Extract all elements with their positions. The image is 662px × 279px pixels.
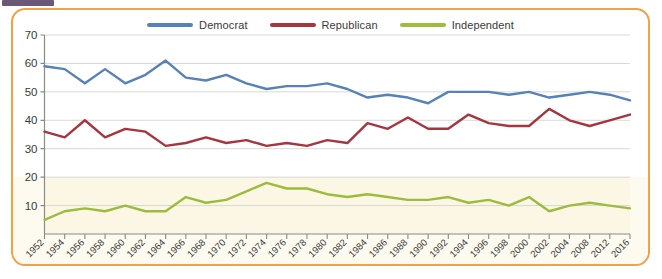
y-axis-label: 10 xyxy=(25,200,38,212)
cropped-banner-fragment xyxy=(2,0,54,6)
y-axis-label: 40 xyxy=(25,114,38,126)
plot-background xyxy=(13,35,650,266)
line-chart-svg: 10203040506070 1952195419561958196019621… xyxy=(13,10,650,266)
y-axis-label: 50 xyxy=(25,86,38,98)
y-axis-label: 60 xyxy=(25,57,38,69)
y-axis-label: 70 xyxy=(25,29,38,41)
y-axis-label: 30 xyxy=(25,143,38,155)
plot-area: 10203040506070 1952195419561958196019621… xyxy=(13,10,650,266)
y-axis-label: 20 xyxy=(25,171,38,183)
chart-card: Democrat Republican Independent 10203040… xyxy=(11,8,650,266)
